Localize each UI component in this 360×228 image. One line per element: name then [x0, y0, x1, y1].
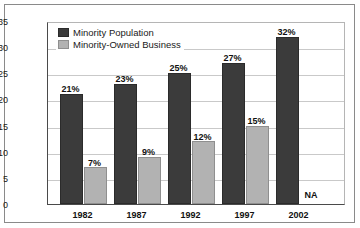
bar-minority-population-1982[interactable] [60, 94, 83, 204]
bar-minority-owned-business-1982[interactable] [84, 167, 107, 204]
gridline-25 [48, 75, 344, 76]
value-label-minority-population-1997: 27% [223, 53, 241, 63]
x-tick-1987: 1987 [126, 210, 146, 220]
x-tick-1982: 1982 [72, 210, 92, 220]
gridline-15 [48, 128, 344, 129]
y-tick-0: 0 [0, 200, 8, 210]
bar-minority-population-2002[interactable] [276, 37, 299, 204]
value-label-minority-population-2002: 32% [277, 27, 295, 37]
bar-minority-population-1987[interactable] [114, 84, 137, 204]
bar-minority-owned-business-1992[interactable] [192, 141, 215, 204]
chart-legend: Minority Population Minority-Owned Busin… [56, 25, 184, 52]
chart-figure: 35 30 25 20 15 10 5 0 21% 23% 25% 27% [0, 0, 360, 228]
y-tick-35: 35 [0, 17, 8, 27]
x-tick-1997: 1997 [234, 210, 254, 220]
legend-label-minority-owned-business: Minority-Owned Business [73, 39, 181, 50]
legend-swatch-minority-owned-business [58, 40, 69, 49]
x-tick-1992: 1992 [180, 210, 200, 220]
value-label-minority-owned-business-1997: 15% [247, 116, 265, 126]
gridline-20 [48, 101, 344, 102]
value-label-minority-population-1992: 25% [169, 63, 187, 73]
y-tick-10: 10 [0, 148, 8, 158]
value-label-minority-owned-business-2002: NA [305, 190, 318, 200]
bar-minority-owned-business-1997[interactable] [246, 126, 269, 204]
legend-swatch-minority-population [58, 28, 69, 37]
y-tick-5: 5 [0, 174, 8, 184]
y-tick-30: 30 [0, 43, 8, 53]
value-label-minority-population-1982: 21% [61, 84, 79, 94]
legend-item-minority-population[interactable]: Minority Population [58, 26, 181, 38]
bar-minority-owned-business-1987[interactable] [138, 157, 161, 204]
legend-label-minority-population: Minority Population [73, 27, 154, 38]
value-label-minority-population-1987: 23% [115, 74, 133, 84]
legend-item-minority-owned-business[interactable]: Minority-Owned Business [58, 38, 181, 50]
x-tick-2002: 2002 [288, 210, 308, 220]
value-label-minority-owned-business-1992: 12% [193, 132, 211, 142]
value-label-minority-owned-business-1982: 7% [88, 158, 101, 168]
y-tick-15: 15 [0, 122, 8, 132]
y-tick-20: 20 [0, 95, 8, 105]
value-label-minority-owned-business-1987: 9% [142, 147, 155, 157]
bar-minority-population-1992[interactable] [168, 73, 191, 204]
y-tick-25: 25 [0, 69, 8, 79]
bar-minority-population-1997[interactable] [222, 63, 245, 204]
